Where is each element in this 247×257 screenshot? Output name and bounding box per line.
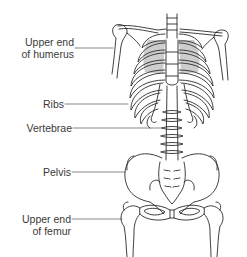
- label-ribs: Ribs: [43, 98, 64, 110]
- right-humerus: [202, 30, 228, 80]
- left-femur: [121, 202, 140, 257]
- label-upper-end-of-humerus: Upper end of humerus: [21, 36, 74, 60]
- label-pelvis: Pelvis: [43, 166, 71, 178]
- leader-lines: [65, 48, 164, 219]
- label-vertebrae: Vertebrae: [26, 122, 72, 134]
- skeleton-diagram: Upper end of humerus Ribs Vertebrae Pelv…: [0, 0, 247, 257]
- label-upper-end-of-femur: Upper end of femur: [22, 213, 71, 237]
- right-femur: [204, 202, 223, 257]
- left-humerus: [112, 24, 140, 78]
- clavicles: [118, 25, 222, 36]
- vertebral-column: [161, 14, 183, 160]
- pelvis: [125, 154, 219, 220]
